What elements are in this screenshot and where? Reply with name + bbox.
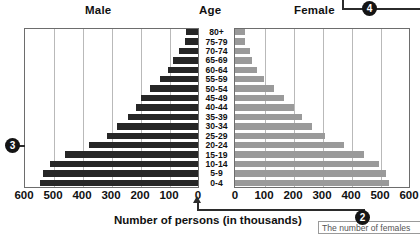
callout-badge-3[interactable]: 3	[5, 138, 20, 153]
tick-male-100: 100	[159, 189, 178, 201]
population-pyramid-chart: Male Age Female 80+75-7970-7465-6960-645…	[0, 0, 420, 234]
callout-4-leader-line	[342, 8, 420, 10]
age-label-65-69: 65-69	[198, 56, 235, 65]
tick-female-0: 0	[232, 189, 238, 201]
tick-female-600: 600	[399, 189, 418, 201]
age-label-30-34: 30-34	[198, 122, 235, 131]
axis-title: Number of persons (in thousands)	[114, 214, 302, 226]
age-label-0-4: 0-4	[198, 179, 235, 188]
callout-2-text: The number of females	[318, 221, 420, 234]
age-column-header: Age	[199, 4, 221, 16]
axis-title-arrow-icon	[193, 196, 201, 203]
tick-male-500: 500	[43, 189, 62, 201]
tick-male-200: 200	[130, 189, 149, 201]
callout-badge-2[interactable]: 2	[355, 210, 370, 225]
female-column-header: Female	[294, 4, 335, 16]
age-label-20-24: 20-24	[198, 141, 235, 150]
age-label-80+: 80+	[198, 28, 235, 37]
age-labels: 80+75-7970-7465-6960-6455-5950-5445-4940…	[0, 28, 420, 188]
axis-tick-labels: 60050040030020010000100200300400500600	[0, 189, 420, 203]
callout-badge-4[interactable]: 4	[362, 1, 377, 16]
callout-2-leader-line	[197, 209, 365, 211]
callout-4-leader-stem	[342, 0, 344, 9]
tick-male-600: 600	[14, 189, 33, 201]
tick-male-400: 400	[72, 189, 91, 201]
age-label-55-59: 55-59	[198, 75, 235, 84]
male-column-header: Male	[85, 4, 111, 16]
tick-female-100: 100	[254, 189, 273, 201]
tick-female-300: 300	[312, 189, 331, 201]
tick-female-200: 200	[283, 189, 302, 201]
tick-female-500: 500	[370, 189, 389, 201]
tick-male-300: 300	[101, 189, 120, 201]
tick-female-400: 400	[341, 189, 360, 201]
age-label-5-9: 5-9	[198, 169, 235, 178]
